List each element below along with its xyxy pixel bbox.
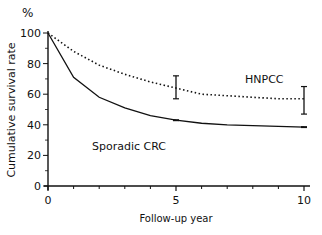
y-tick-label: 0 xyxy=(34,180,41,193)
survival-chart: 0204060801000510 % Cumulative survival r… xyxy=(0,0,322,235)
y-unit-label: % xyxy=(22,6,33,20)
x-tick-label: 0 xyxy=(45,194,52,207)
x-axis-title: Follow-up year xyxy=(139,213,213,224)
y-axis-title: Cumulative survival rate xyxy=(5,42,18,177)
y-tick-label: 100 xyxy=(20,27,41,40)
hnpcc-label: HNPCC xyxy=(245,73,284,86)
axes: 0204060801000510 xyxy=(20,27,311,207)
y-tick-label: 20 xyxy=(27,149,41,162)
x-tick-label: 10 xyxy=(297,194,311,207)
x-tick-label: 5 xyxy=(173,194,180,207)
y-tick-label: 40 xyxy=(27,119,41,132)
y-tick-label: 60 xyxy=(27,88,41,101)
y-tick-label: 80 xyxy=(27,58,41,71)
sporadic-crc-label: Sporadic CRC xyxy=(92,140,166,153)
